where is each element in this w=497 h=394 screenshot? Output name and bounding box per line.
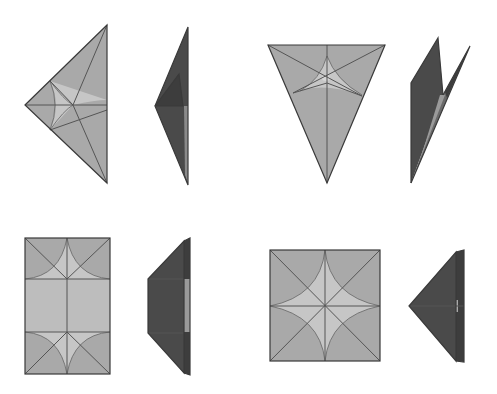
step-2-side-view xyxy=(411,38,470,183)
step-4-flat-square xyxy=(270,250,380,361)
step-2-flat-inverted-triangle xyxy=(268,45,385,183)
step-3-side-view xyxy=(148,238,190,375)
step-4-side-view xyxy=(409,250,464,362)
step-1-flat-triangle xyxy=(25,25,107,183)
step-1-side-view xyxy=(155,27,188,185)
step-3-flat-rectangle xyxy=(25,238,110,374)
origami-diagram xyxy=(0,0,497,394)
